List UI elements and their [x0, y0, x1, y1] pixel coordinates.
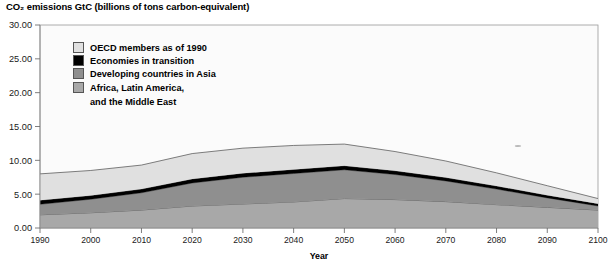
x-tick-label: 2080 [487, 235, 506, 245]
legend-item-oecd: OECD members as of 1990 [73, 41, 216, 54]
y-tick-label: 0.00 [14, 223, 32, 233]
plot-area: 0.005.0010.0015.0020.0025.0030.00 199020… [0, 0, 616, 264]
y-tick-label: 5.00 [14, 190, 32, 200]
legend-item-africa: Africa, Latin America, and the Middle Ea… [73, 80, 216, 104]
x-tick-label: 2090 [538, 235, 557, 245]
legend-label-oecd: OECD members as of 1990 [90, 43, 207, 53]
y-tick-label: 20.00 [9, 88, 32, 98]
x-tick-label: 2020 [183, 235, 202, 245]
x-tick-label: 2000 [81, 235, 100, 245]
legend-label-africa-line1: Africa, Latin America, [90, 83, 184, 93]
legend-label-africa-line2: and the Middle East [90, 97, 176, 107]
x-tick-label: 1990 [30, 235, 49, 245]
chart-legend: OECD members as of 1990 Economies in tra… [73, 41, 216, 104]
chart-svg: 0.005.0010.0015.0020.0025.0030.00 199020… [0, 0, 616, 264]
y-tick-label: 15.00 [9, 122, 32, 132]
x-tick-label: 2030 [233, 235, 252, 245]
y-tick-label: 10.00 [9, 156, 32, 166]
y-tick-label: 30.00 [9, 20, 32, 30]
x-axis-title: Year [310, 251, 329, 261]
legend-item-transition: Economies in transition [73, 54, 216, 67]
x-tick-label: 2050 [335, 235, 354, 245]
x-tick-label: 2100 [588, 235, 607, 245]
x-tick-label: 2040 [284, 235, 303, 245]
legend-swatch-africa [73, 82, 84, 93]
legend-label-transition: Economies in transition [90, 56, 194, 66]
chart-figure: CO₂ emissions GtC (billions of tons carb… [0, 0, 616, 264]
x-tick-label: 2070 [436, 235, 455, 245]
x-axis-ticks: 1990200020102020203020402050206020702080… [30, 228, 607, 245]
x-tick-label: 2060 [386, 235, 405, 245]
legend-swatch-transition [73, 55, 84, 66]
legend-item-asia: Developing countries in Asia [73, 67, 216, 80]
legend-swatch-oecd [73, 42, 84, 53]
scan-artifact-speck [515, 145, 521, 147]
legend-swatch-asia [73, 68, 84, 79]
y-tick-label: 25.00 [9, 54, 32, 64]
y-axis-ticks: 0.005.0010.0015.0020.0025.0030.00 [9, 20, 40, 233]
legend-label-asia: Developing countries in Asia [90, 69, 216, 79]
x-tick-label: 2010 [132, 235, 151, 245]
